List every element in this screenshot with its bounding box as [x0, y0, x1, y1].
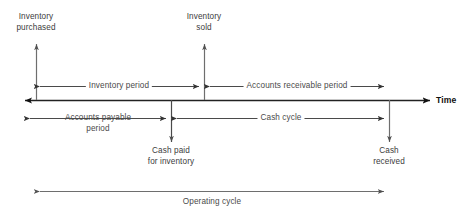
event-label-cash-received: Cash received — [373, 146, 405, 167]
event-label-line1: Cash paid — [148, 146, 194, 157]
event-label-cash-paid-for-inventory: Cash paid for inventory — [148, 146, 194, 167]
event-label-line2: for inventory — [148, 157, 194, 168]
event-label-inventory-sold: Inventory sold — [187, 12, 222, 33]
period-label-cash-cycle: Cash cycle — [257, 113, 304, 124]
period-label-operating-cycle: Operating cycle — [183, 197, 241, 208]
event-label-inventory-purchased: Inventory purchased — [16, 12, 55, 33]
diagram-canvas — [0, 0, 474, 221]
event-label-line1: Cash — [373, 146, 405, 157]
period-label-line2: period — [65, 124, 131, 135]
period-label-inventory-period: Inventory period — [86, 81, 152, 92]
event-label-line2: sold — [187, 23, 222, 34]
event-label-line2: purchased — [16, 23, 55, 34]
period-label-accounts-payable-period: Accounts payable period — [65, 113, 131, 134]
event-label-line1: Inventory — [187, 12, 222, 23]
time-axis — [25, 98, 430, 104]
event-label-line2: received — [373, 157, 405, 168]
time-axis-label: Time — [436, 95, 456, 106]
period-label-line1: Accounts payable — [65, 113, 131, 124]
period-label-accounts-receivable-period: Accounts receivable period — [244, 81, 351, 92]
event-label-line1: Inventory — [16, 12, 55, 23]
cash-cycle-diagram: Inventory purchased Inventory sold Cash … — [0, 0, 474, 221]
